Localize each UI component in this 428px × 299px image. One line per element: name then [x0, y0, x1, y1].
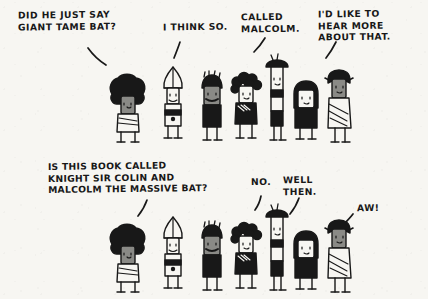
caption-i-think-so: I THINK SO.	[163, 22, 228, 34]
pointer-line-is-this-book	[136, 198, 150, 218]
caption-well-then: WELL THEN.	[283, 175, 317, 198]
character-tall-flat-hat-figure	[262, 58, 292, 146]
caption-is-this-book-called: IS THIS BOOK CALLED KNIGHT SIR COLIN AND…	[48, 160, 208, 196]
pointer-line-i-think-so	[172, 40, 186, 60]
pointer-line-called-malcolm	[252, 36, 268, 54]
character-toga-robe-figure	[322, 68, 358, 148]
character-bob-hair-figure	[289, 80, 323, 144]
character-curly-hair-figure	[228, 70, 264, 144]
character-toga-robe-figure-2	[322, 218, 358, 298]
comic-panel-bottom: IS THIS BOOK CALLED KNIGHT SIR COLIN AND…	[0, 150, 428, 299]
character-afro-hair-figure	[104, 74, 152, 144]
character-tall-flat-hat-figure-2	[262, 208, 292, 296]
pointer-line-did-he-just-say	[86, 46, 112, 68]
caption-called-malcolm: CALLED MALCOLM.	[241, 12, 300, 36]
character-curly-hair-figure-2	[228, 220, 264, 294]
comic-panel-top: DID HE JUST SAY GIANT TAME BAT? I THINK …	[0, 0, 428, 150]
caption-no: NO.	[251, 177, 271, 189]
character-moustache-figure-2	[196, 224, 228, 294]
character-bob-hair-figure-2	[289, 230, 323, 294]
character-bishop-mitre-figure	[155, 66, 191, 144]
pointer-line-id-like-to-hear	[324, 40, 340, 60]
character-bishop-mitre-figure-2	[155, 216, 191, 294]
caption-aw: AW!	[357, 203, 380, 215]
character-afro-hair-figure-2	[104, 224, 152, 294]
character-moustache-figure	[196, 74, 228, 144]
comic-strip: DID HE JUST SAY GIANT TAME BAT? I THINK …	[0, 0, 428, 299]
caption-did-he-just-say: DID HE JUST SAY GIANT TAME BAT?	[18, 9, 117, 33]
caption-id-like-to-hear-more: I'D LIKE TO HEAR MORE ABOUT THAT.	[318, 9, 391, 44]
